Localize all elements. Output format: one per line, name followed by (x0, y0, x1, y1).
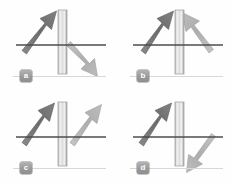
panel-label-badge-c: c (20, 162, 32, 174)
incident-arrow (22, 103, 55, 146)
incident-arrow (22, 11, 57, 54)
caption-row-c: c (13, 162, 106, 176)
vertical-slab (58, 102, 67, 166)
caption-row-b: b (130, 70, 223, 84)
incident-arrow (141, 11, 174, 54)
figure-root: a (0, 0, 233, 184)
panel-label-badge-a: a (20, 70, 32, 82)
panel-d: d (117, 92, 233, 184)
panel-a: a (0, 0, 116, 92)
panel-b: b (117, 0, 233, 92)
incident-arrow (139, 103, 172, 146)
panel-label-badge-b: b (137, 70, 149, 82)
vertical-slab (175, 102, 184, 166)
panel-label-badge-d: d (137, 162, 149, 174)
vertical-slab (175, 10, 184, 74)
vertical-slab (58, 10, 67, 74)
outgoing-arrow (70, 105, 102, 147)
caption-row-d: d (130, 162, 223, 176)
outgoing-arrow (182, 13, 214, 54)
caption-row-a: a (13, 70, 106, 84)
panel-c: c (0, 92, 116, 184)
